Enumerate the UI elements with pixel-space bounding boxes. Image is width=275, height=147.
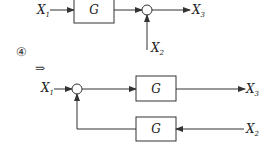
bottom-forward-g-label: G	[151, 82, 161, 96]
top-g-label: G	[89, 3, 99, 17]
block-diagram: X1 G X3 X2 ④ ⇒ X1 G X3 G X2	[0, 0, 275, 147]
bottom-x2-label: X2	[245, 122, 260, 138]
top-summing-junction	[142, 5, 152, 15]
step-marker: ④	[16, 45, 27, 59]
bottom-x1-label: X1	[40, 81, 54, 97]
bottom-feedback-path	[77, 94, 136, 129]
top-x2-label: X2	[150, 41, 165, 57]
bottom-summing-junction	[72, 84, 82, 94]
top-x1-label: X1	[36, 3, 50, 19]
top-x3-label: X3	[191, 3, 206, 19]
top-diagram: X1 G X3 X2	[36, 0, 206, 57]
bottom-diagram: X1 G X3 G X2	[40, 76, 260, 141]
bottom-x3-label: X3	[245, 82, 260, 98]
implies-arrow: ⇒	[35, 61, 45, 75]
bottom-feedback-g-label: G	[151, 122, 161, 136]
